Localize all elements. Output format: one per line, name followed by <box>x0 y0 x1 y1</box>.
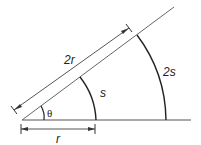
label-s: s <box>100 86 106 100</box>
arc-s <box>80 77 96 120</box>
arc-2s <box>137 35 166 120</box>
angle-arc <box>41 106 44 120</box>
arc-length-diagram: 2r r s 2s θ <box>0 0 201 145</box>
inclined-ray <box>22 7 174 120</box>
label-2s: 2s <box>162 65 176 79</box>
dimension-2r <box>11 24 132 114</box>
label-2r: 2r <box>63 53 76 67</box>
label-r: r <box>56 132 61 145</box>
label-theta: θ <box>47 107 52 119</box>
